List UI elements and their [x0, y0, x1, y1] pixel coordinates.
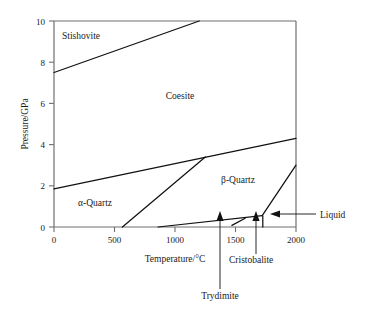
- phase-diagram-canvas: 0 2 4 6 8 10 0 500 1000 1500 2000 Temper…: [0, 0, 366, 310]
- y-axis-tick-labels: 0 2 4 6 8 10: [36, 17, 46, 233]
- boundary-alpha-beta-quartz: [122, 157, 205, 227]
- x-tick-label-0: 0: [52, 235, 57, 245]
- region-label-coesite: Coesite: [166, 91, 195, 101]
- liquid-arrowhead-icon: [270, 210, 280, 217]
- callout-label-liquid: Liquid: [320, 210, 346, 220]
- x-tick-label-1500: 1500: [227, 235, 246, 245]
- callout-label-cristobalite: Cristobalite: [229, 255, 273, 265]
- boundary-melting-curve: [262, 165, 296, 216]
- region-label-stishovite: Stishovite: [62, 31, 100, 41]
- x-tick-label-1000: 1000: [166, 235, 185, 245]
- trydimite-arrowhead-icon: [216, 211, 223, 221]
- phase-boundaries: [54, 21, 296, 227]
- plot-frame: [54, 21, 296, 227]
- x-tick-label-500: 500: [108, 235, 122, 245]
- callout-liquid: Liquid: [270, 210, 346, 220]
- region-label-beta-quartz: β-Quartz: [221, 175, 255, 185]
- y-axis-title: Pressure/GPa: [20, 98, 30, 150]
- y-tick-label-2: 2: [41, 181, 46, 191]
- boundary-coesite-quartz: [54, 138, 296, 189]
- x-tick-label-2000: 2000: [287, 235, 306, 245]
- boundary-quartz-tridymite: [158, 216, 262, 227]
- y-tick-label-10: 10: [36, 17, 46, 27]
- callout-label-trydimite: Trydimite: [201, 291, 239, 301]
- x-axis-title: Temperature/°C: [145, 254, 206, 264]
- x-axis-tick-labels: 0 500 1000 1500 2000: [52, 235, 306, 245]
- y-tick-label-0: 0: [41, 223, 46, 233]
- x-axis-ticks: [54, 227, 296, 232]
- boundary-stishovite-coesite: [54, 21, 199, 73]
- y-tick-label-6: 6: [41, 99, 46, 109]
- y-tick-label-4: 4: [41, 140, 46, 150]
- y-tick-label-8: 8: [41, 58, 46, 68]
- region-label-alpha-quartz: α-Quartz: [78, 198, 112, 208]
- y-axis-ticks: [49, 21, 54, 227]
- phase-diagram-figure: 0 2 4 6 8 10 0 500 1000 1500 2000 Temper…: [0, 0, 366, 310]
